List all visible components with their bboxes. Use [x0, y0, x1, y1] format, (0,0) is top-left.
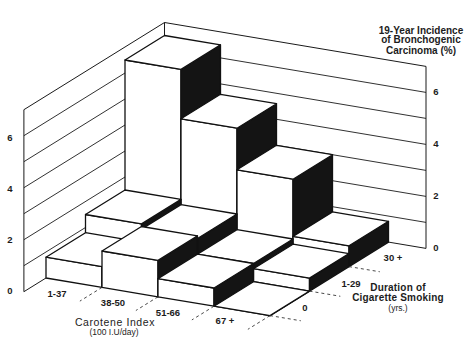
- duration-tick: [349, 267, 380, 272]
- duration-category-label: 0: [302, 302, 307, 313]
- duration-tick: [270, 316, 301, 321]
- carotene-tick: [80, 287, 102, 301]
- carotene-tick: [192, 306, 214, 320]
- duration-tick: [310, 291, 341, 296]
- left-tick-label: 6: [7, 132, 12, 143]
- right-tick-label: 2: [433, 190, 438, 201]
- left-axis-labels: 0 2 4 6: [7, 132, 13, 297]
- carotene-category-label: 67 +: [216, 315, 235, 326]
- carotene-category-label: 38-50: [101, 297, 125, 308]
- chart-title-line-3: Carcinoma (%): [386, 45, 456, 56]
- left-tick-label: 0: [7, 285, 12, 296]
- duration-axis-title-line-2: Cigarette Smoking: [352, 292, 444, 303]
- duration-category-label: 30 +: [384, 252, 403, 263]
- right-tick-label: 0: [433, 242, 438, 253]
- right-tick-label: 4: [433, 138, 439, 149]
- carotene-category-label: 1-37: [47, 288, 66, 299]
- carotene-category-label: 51-66: [156, 307, 180, 318]
- carotene-tick: [136, 297, 158, 311]
- right-axis-labels: 0 2 4 6: [433, 86, 439, 253]
- carotene-tick: [248, 316, 270, 330]
- chart-3d-bar: 19-Year Incidence of Bronchogenic Carcin…: [0, 0, 471, 349]
- chart-title-line-2: of Bronchogenic: [381, 34, 461, 45]
- left-tick-label: 4: [7, 183, 13, 194]
- duration-category-label: 1-29: [341, 278, 360, 289]
- chart-title: 19-Year Incidence of Bronchogenic Carcin…: [379, 25, 464, 56]
- left-tick-label: 2: [7, 234, 12, 245]
- right-tick-label: 6: [433, 86, 438, 97]
- duration-axis-unit: (yrs.): [388, 303, 408, 313]
- carotene-axis-unit: (100 I.U/day): [89, 327, 138, 337]
